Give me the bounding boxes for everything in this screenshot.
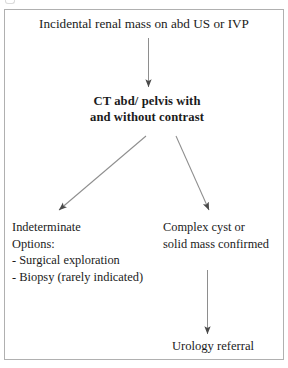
node-indeterminate-options: Indeterminate Options: - Surgical explor… <box>12 219 162 285</box>
node-incidental-renal-mass: Incidental renal mass on abd US or IVP <box>0 16 288 32</box>
arrow-ct-to-complex <box>176 136 209 210</box>
node-complex-cyst-or-solid-mass: Complex cyst or solid mass confirmed <box>163 219 288 252</box>
flowchart-page: Incidental renal mass on abd US or IVP C… <box>0 0 288 368</box>
node-urology-referral: Urology referral <box>148 339 278 354</box>
arrow-ct-to-indeterminate <box>59 136 146 210</box>
flowchart-arrows <box>0 0 288 368</box>
node-ct-abd-pelvis: CT abd/ pelvis with and without contrast <box>72 94 222 125</box>
